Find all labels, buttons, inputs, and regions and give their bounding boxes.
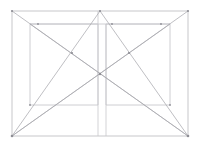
node-right-rect-bottom-right xyxy=(169,104,171,106)
node-corner-bottom-left xyxy=(11,135,14,138)
diagonal-bottom-left-to-right-upper xyxy=(12,24,170,136)
node-right-upper-intersection xyxy=(128,52,130,54)
node-center xyxy=(99,73,101,75)
diagonal-apex-to-bottom-left xyxy=(12,11,100,136)
node-left-rect-bottom-left xyxy=(29,104,31,106)
node-corner-top-right xyxy=(187,10,189,12)
node-corner-bottom-right xyxy=(187,135,190,138)
diagonal-apex-to-bottom-right xyxy=(100,11,188,136)
node-corner-top-left xyxy=(11,10,13,12)
diagram-canvas xyxy=(0,0,202,148)
node-left-band-intersection xyxy=(37,23,39,25)
node-apex xyxy=(99,10,101,12)
construction-drawing xyxy=(0,0,202,148)
node-right-band-intersection xyxy=(160,23,162,25)
node-apex-band xyxy=(111,23,113,25)
diagonal-bottom-right-to-left-upper xyxy=(30,24,188,136)
node-left-upper-intersection xyxy=(71,52,73,54)
